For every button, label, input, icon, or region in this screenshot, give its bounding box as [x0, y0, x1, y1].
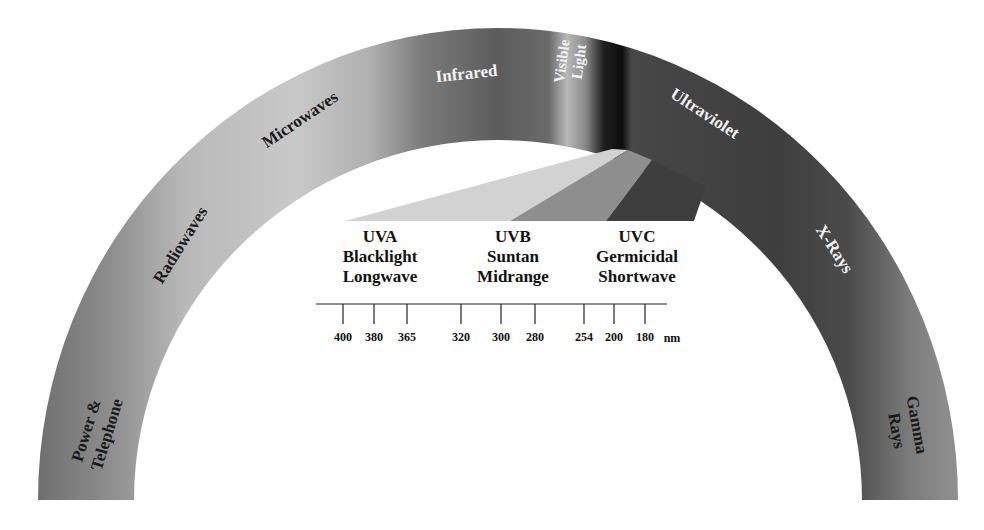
svg-text:254: 254: [575, 330, 593, 344]
scale-tick-labels: 400 380 365 320 300 280 254 200 180 nm: [334, 330, 680, 345]
svg-text:300: 300: [492, 330, 510, 344]
svg-text:180: 180: [636, 330, 654, 344]
svg-text:365: 365: [398, 330, 416, 344]
uvb-label: UVB Suntan Midrange: [477, 227, 549, 286]
svg-text:Midrange: Midrange: [477, 267, 549, 286]
svg-text:280: 280: [526, 330, 544, 344]
scale-unit: nm: [664, 331, 681, 345]
svg-text:Suntan: Suntan: [487, 247, 540, 266]
svg-text:400: 400: [334, 330, 352, 344]
svg-text:Shortwave: Shortwave: [598, 267, 676, 286]
wavelength-scale: [316, 304, 667, 324]
uvc-label: UVC Germicidal Shortwave: [596, 227, 678, 286]
svg-text:Longwave: Longwave: [343, 267, 418, 286]
svg-text:Germicidal: Germicidal: [596, 247, 678, 266]
svg-text:UVB: UVB: [495, 227, 531, 246]
uva-label: UVA Blacklight Longwave: [343, 227, 418, 286]
svg-text:320: 320: [452, 330, 470, 344]
svg-text:Blacklight: Blacklight: [343, 247, 418, 266]
svg-text:200: 200: [605, 330, 623, 344]
svg-text:380: 380: [365, 330, 383, 344]
svg-text:UVC: UVC: [619, 227, 656, 246]
svg-text:UVA: UVA: [363, 227, 398, 246]
em-spectrum-diagram: Power & Telephone Radiowaves Microwaves …: [0, 0, 984, 530]
